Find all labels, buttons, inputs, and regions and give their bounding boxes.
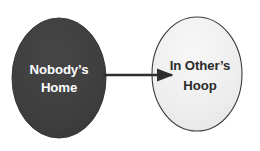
- diagram-canvas: Nobody’s Home In Other’s Hoop: [0, 0, 260, 151]
- source-label-line2: Home: [41, 80, 77, 95]
- target-label-line1: In Other’s: [170, 58, 231, 73]
- target-label-line2: Hoop: [183, 78, 216, 93]
- source-ellipse-shape: [12, 18, 106, 138]
- source-label-line1: Nobody’s: [30, 62, 89, 77]
- flow-diagram: Nobody’s Home In Other’s Hoop: [0, 0, 260, 151]
- node-source[interactable]: Nobody’s Home: [12, 18, 106, 138]
